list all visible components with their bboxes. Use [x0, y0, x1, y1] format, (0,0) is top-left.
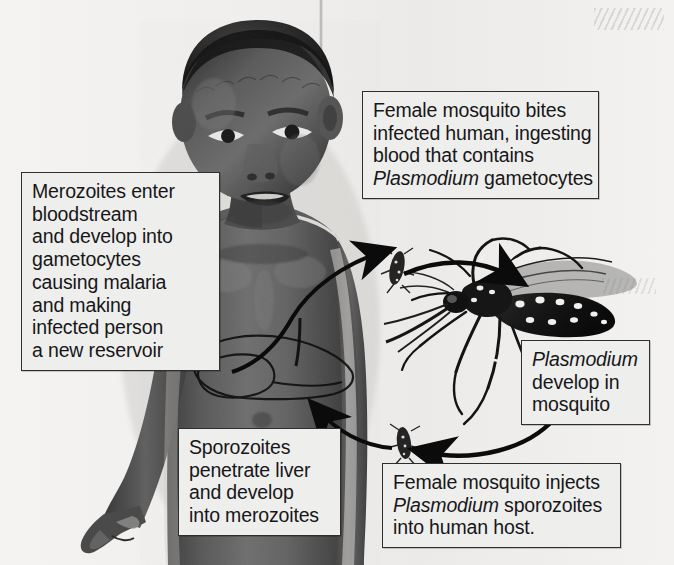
callout-sporozoites-penetrate-liver: Sporozoites penetrate liver and develop …: [178, 428, 341, 536]
callout-line: develop in: [532, 371, 640, 394]
callout-line: mosquito: [532, 393, 640, 416]
callout-line: infected human, ingesting: [373, 122, 589, 145]
callout-line: Female mosquito bites: [373, 99, 589, 122]
callout-line: a new reservoir: [32, 339, 210, 362]
callout-line: Female mosquito injects: [393, 471, 611, 494]
genus-name: Plasmodium: [393, 494, 499, 516]
callout-line: and develop: [189, 481, 331, 504]
callout-plasmodium-develop-in-mosquito: Plasmodium develop in mosquito: [521, 340, 650, 425]
callout-line-italic: Plasmodium sporozoites: [393, 494, 611, 517]
callout-line: penetrate liver: [189, 459, 331, 482]
callout-line: and develop into: [32, 225, 210, 248]
callout-line: gametocytes: [32, 248, 210, 271]
callout-line-rest: sporozoites: [499, 494, 602, 516]
callout-line: Sporozoites: [189, 436, 331, 459]
genus-name: Plasmodium: [532, 348, 638, 370]
callout-line-rest: gametocytes: [479, 167, 593, 189]
callout-line: bloodstream: [32, 203, 210, 226]
callout-line-italic: Plasmodium: [532, 348, 640, 371]
malaria-cycle-diagram: Female mosquito bites infected human, in…: [0, 0, 674, 565]
callout-female-mosquito-injects: Female mosquito injects Plasmodium sporo…: [382, 463, 621, 548]
callout-line: blood that contains: [373, 144, 589, 167]
mosquito-on-forearm: [387, 424, 421, 466]
callout-merozoites-enter-bloodstream: Merozoites enter bloodstream and develop…: [21, 172, 220, 371]
callout-line-italic: Plasmodium gametocytes: [373, 167, 589, 190]
callout-line: causing malaria: [32, 271, 210, 294]
callout-line: into merozoites: [189, 504, 331, 527]
callout-female-mosquito-bites: Female mosquito bites infected human, in…: [362, 91, 599, 199]
callout-line: into human host.: [393, 516, 611, 539]
callout-line: infected person: [32, 316, 210, 339]
callout-line: Merozoites enter: [32, 180, 210, 203]
callout-line: and making: [32, 294, 210, 317]
genus-name: Plasmodium: [373, 167, 479, 189]
